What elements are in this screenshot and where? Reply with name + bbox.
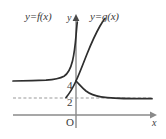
x-axis-label: x bbox=[152, 118, 156, 128]
curve-f bbox=[13, 22, 77, 81]
y-axis-label: y bbox=[67, 13, 71, 23]
curve-g-label: y=g(x) bbox=[90, 11, 119, 22]
curve-f-right-branch bbox=[76, 81, 152, 99]
y-axis-arrowhead bbox=[73, 14, 80, 21]
y-tick-label-2: 2 bbox=[67, 97, 73, 108]
origin-label: O bbox=[66, 117, 74, 128]
x-axis bbox=[13, 112, 157, 119]
exponential-functions-graph: y=f(x) y=g(x) y x 4 2 O bbox=[0, 0, 166, 139]
y-tick-label-4: 4 bbox=[67, 80, 73, 91]
curve-f-label: y=f(x) bbox=[25, 11, 51, 22]
